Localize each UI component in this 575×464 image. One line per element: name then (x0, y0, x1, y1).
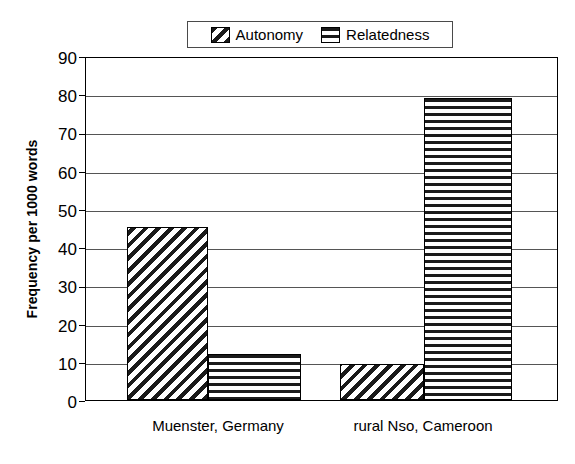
y-axis-title: Frequency per 1000 words (24, 109, 40, 349)
y-tick-label-80: 80 (33, 88, 77, 105)
bar-relatedness-nso (424, 98, 512, 400)
bar-autonomy-muenster (127, 227, 208, 400)
y-tick-label-40: 40 (33, 241, 77, 258)
y-tick-mark-0 (79, 401, 85, 402)
legend-item-relatedness: Relatedness (321, 27, 429, 43)
bar-autonomy-nso (340, 364, 424, 400)
y-tick-label-90: 90 (33, 50, 77, 67)
diagonal-hatch-swatch-icon (211, 27, 230, 43)
x-tick-label-muenster: Muenster, Germany (118, 418, 318, 433)
y-tick-label-60: 60 (33, 165, 77, 182)
y-tick-label-70: 70 (33, 126, 77, 143)
bar-chart: Autonomy Relatedness Frequency per 1000 … (0, 0, 575, 464)
bar-relatedness-muenster (208, 354, 301, 400)
legend-label-relatedness: Relatedness (346, 27, 429, 42)
legend-label-autonomy: Autonomy (236, 27, 304, 42)
y-tick-label-0: 0 (33, 394, 77, 411)
legend-item-autonomy: Autonomy (211, 27, 304, 43)
y-tick-label-10: 10 (33, 356, 77, 373)
y-tick-label-50: 50 (33, 203, 77, 220)
x-tick-label-nso: rural Nso, Cameroon (323, 418, 523, 433)
chart-legend: Autonomy Relatedness (187, 21, 453, 48)
y-tick-label-30: 30 (33, 279, 77, 296)
horizontal-hatch-swatch-icon (321, 27, 340, 43)
plot-area (85, 57, 558, 401)
y-tick-label-20: 20 (33, 318, 77, 335)
